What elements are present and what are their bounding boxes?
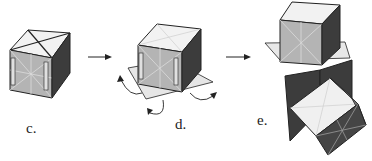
panel-label-e: e.	[257, 112, 267, 129]
arrow-c-to-d	[88, 54, 112, 60]
arrow-d-to-e	[226, 54, 251, 60]
panel-label-d: d.	[175, 116, 186, 133]
folding-diagram	[0, 0, 372, 161]
panel-label-c: c.	[26, 120, 36, 137]
cube-c	[10, 30, 70, 98]
cube-d	[117, 24, 217, 115]
cube-e	[265, 2, 366, 155]
